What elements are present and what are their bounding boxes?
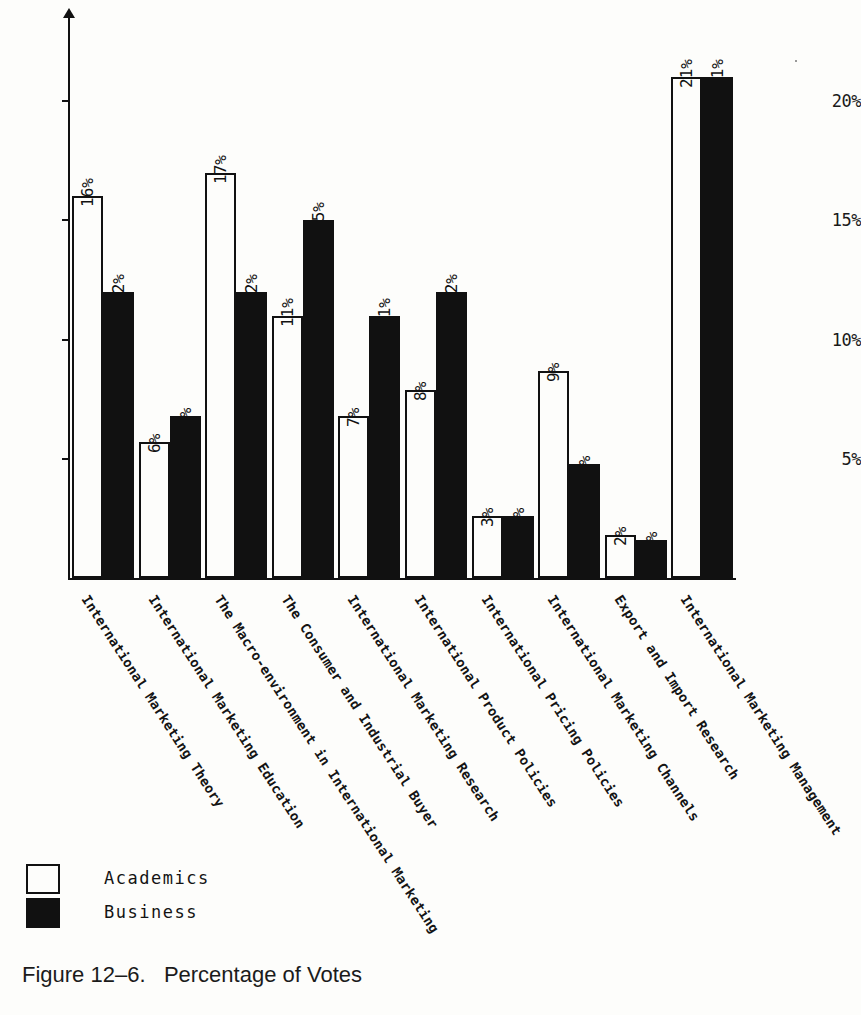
bar-value-label: 12% (442, 274, 461, 303)
y-axis-tick-mark (62, 219, 69, 221)
caption-number: Figure 12–6. (22, 962, 146, 987)
bar-academics (272, 316, 303, 578)
bar-academics (671, 77, 702, 578)
bar-value-label: 15% (309, 202, 328, 231)
y-axis-tick-mark (62, 339, 69, 341)
y-axis-tick-label: 15% (809, 210, 861, 230)
x-axis-line (68, 578, 736, 580)
bar-academics (338, 416, 369, 578)
bar-business (236, 292, 267, 578)
bar-business (103, 292, 134, 578)
bar-value-label: 8% (411, 381, 430, 400)
category-label: International Marketing Theory (79, 592, 228, 810)
bar-value-label: 17% (211, 155, 230, 184)
legend-swatch-business-icon (26, 898, 60, 928)
y-axis-line (68, 12, 70, 580)
bar-value-label: 11% (375, 298, 394, 327)
chart-legend: Academics Business (26, 862, 326, 930)
bar-value-label: 2% (642, 532, 661, 551)
category-label: Export and Import Research (611, 592, 742, 782)
bar-value-label: 12% (109, 274, 128, 303)
y-axis-tick-label: 20% (809, 91, 861, 111)
bar-chart-plot: 5%10%15%20% 16%12%6%7%17%12%11%15%7%11%8… (0, 0, 861, 600)
category-label: International Marketing Channels (545, 592, 704, 824)
bar-value-label: 3% (509, 508, 528, 527)
bar-academics (139, 442, 170, 578)
bar-value-label: 5% (575, 455, 594, 474)
bar-value-label: 3% (478, 508, 497, 527)
legend-label-academics: Academics (104, 868, 210, 888)
bar-value-label: 11% (278, 298, 297, 327)
legend-swatch-academics-icon (26, 864, 60, 894)
bar-value-label: 9% (544, 362, 563, 381)
y-axis-tick-label: 5% (809, 449, 861, 469)
bar-business (702, 77, 733, 578)
y-axis-tick-label: 10% (809, 330, 861, 350)
bar-value-label: 6% (145, 434, 164, 453)
category-label: International Pricing Policies (478, 592, 627, 810)
bar-value-label: 21% (708, 59, 727, 88)
bar-value-label: 12% (242, 274, 261, 303)
legend-item-academics: Academics (26, 862, 326, 896)
bar-business (436, 292, 467, 578)
bar-business (569, 464, 600, 578)
bar-value-label: 16% (78, 178, 97, 207)
legend-item-business: Business (26, 896, 326, 930)
bar-value-label: 7% (176, 408, 195, 427)
bar-value-label: 7% (344, 408, 363, 427)
scan-speck (795, 60, 797, 62)
bar-business (369, 316, 400, 578)
category-label: International Product Policies (412, 592, 561, 810)
y-axis-tick-mark (62, 100, 69, 102)
bar-academics (538, 371, 569, 578)
legend-label-business: Business (104, 902, 198, 922)
category-label: International Marketing Research (345, 592, 504, 824)
figure-12-6: 5%10%15%20% 16%12%6%7%17%12%11%15%7%11%8… (0, 0, 861, 1015)
figure-caption: Figure 12–6. Percentage of Votes (22, 962, 362, 988)
bar-academics (205, 173, 236, 578)
bar-business (303, 220, 334, 578)
y-axis-tick-mark (62, 458, 69, 460)
bar-value-label: 21% (677, 59, 696, 88)
caption-title: Percentage of Votes (164, 962, 362, 987)
caption-gap (146, 962, 164, 987)
bar-business (170, 416, 201, 578)
bar-value-label: 2% (611, 527, 630, 546)
bar-academics (405, 390, 436, 578)
bar-academics (72, 196, 103, 578)
